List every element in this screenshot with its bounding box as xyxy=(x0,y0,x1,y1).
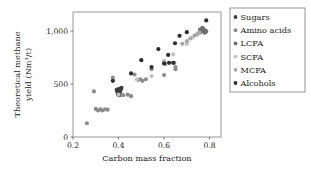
x-tick-label: 0.4 xyxy=(112,141,124,150)
data-point xyxy=(118,87,122,91)
data-point xyxy=(197,31,201,35)
legend-marker-icon xyxy=(234,28,238,32)
y-tick-label: 0 xyxy=(63,133,68,142)
legend-marker-icon xyxy=(234,15,238,19)
y-axis-title-line2: yield (Nm³/t) xyxy=(23,48,33,102)
data-point xyxy=(129,71,133,75)
x-axis-ticks: 0.20.40.60.8 xyxy=(67,137,216,150)
data-point xyxy=(149,74,153,78)
legend-marker-icon xyxy=(234,55,238,59)
chart-figure: 0.20.40.60.8 05001,000 Carbon mass fract… xyxy=(0,0,311,173)
data-point xyxy=(180,42,184,46)
data-point xyxy=(162,61,166,65)
data-point xyxy=(185,30,189,34)
x-axis-title-group: Carbon mass fraction xyxy=(102,153,192,163)
data-point xyxy=(171,52,175,56)
legend-marker-icon xyxy=(234,81,238,85)
legend-label: Amino acids xyxy=(240,25,292,35)
series-amino-acids xyxy=(85,61,178,126)
x-tick-label: 0.6 xyxy=(158,141,170,150)
x-tick-label: 0.8 xyxy=(204,141,216,150)
x-tick-label: 0.2 xyxy=(67,141,79,150)
legend-label: SCFA xyxy=(241,52,264,62)
data-point xyxy=(173,67,177,71)
data-point xyxy=(185,39,189,43)
data-point xyxy=(144,77,148,81)
data-point xyxy=(167,61,171,65)
legend-label: Sugars xyxy=(241,12,270,22)
scatter-plot-svg: 0.20.40.60.8 05001,000 Carbon mass fract… xyxy=(0,0,311,173)
data-point xyxy=(204,18,208,22)
y-axis-title-line1: Theoretical methane xyxy=(12,31,22,117)
data-point xyxy=(188,36,192,40)
x-axis-title: Carbon mass fraction xyxy=(102,153,192,163)
data-point xyxy=(129,94,133,98)
data-point xyxy=(116,93,120,97)
series-alcohols xyxy=(111,18,209,83)
legend-marker-icon xyxy=(234,68,238,72)
y-axis-ticks: 05001,000 xyxy=(46,27,73,142)
data-point xyxy=(121,93,125,97)
legend-label: LCFA xyxy=(241,38,264,48)
y-tick-label: 500 xyxy=(54,80,69,89)
data-point xyxy=(166,53,170,57)
legend-item-amino-acids[interactable]: Amino acids xyxy=(234,25,292,35)
legend-item-alcohols[interactable]: Alcohols xyxy=(234,78,276,88)
legend-label: MCFA xyxy=(241,65,267,75)
data-point xyxy=(111,79,115,83)
data-point xyxy=(139,58,143,62)
data-point xyxy=(135,77,139,81)
legend-marker-icon xyxy=(234,42,238,46)
data-point xyxy=(85,121,89,125)
y-tick-label: 1,000 xyxy=(46,27,68,36)
data-point xyxy=(177,34,181,38)
legend-label: Alcohols xyxy=(240,78,276,88)
legend: SugarsAmino acidsLCFASCFAMCFAAlcohols xyxy=(230,8,305,92)
data-point xyxy=(156,47,160,51)
data-point xyxy=(149,65,153,69)
data-point xyxy=(106,108,110,112)
series-mcfa xyxy=(180,31,201,46)
data-point xyxy=(204,30,208,34)
data-point xyxy=(173,41,177,45)
data-points-layer xyxy=(85,18,209,125)
data-point xyxy=(162,73,166,77)
y-axis-title-group: Theoretical methane yield (Nm³/t) xyxy=(12,31,33,117)
data-point xyxy=(171,61,175,65)
data-point xyxy=(92,89,96,93)
